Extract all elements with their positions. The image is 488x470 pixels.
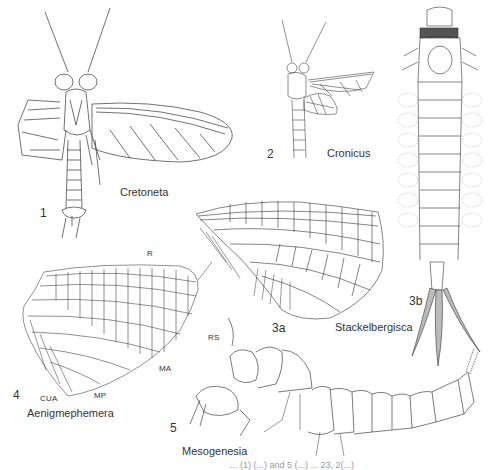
taxon-label-cretoneta: Cretoneta bbox=[120, 187, 168, 198]
mesogenesia-nymph-drawing bbox=[190, 318, 478, 456]
taxon-label-mesogenesia: Mesogenesia bbox=[182, 446, 247, 457]
panel-number-2: 2 bbox=[267, 148, 274, 160]
taxon-label-stackelbergisca: Stackelbergisca bbox=[335, 322, 413, 333]
panel-number-5: 5 bbox=[170, 422, 177, 434]
vein-label-rs: RS bbox=[208, 334, 220, 342]
panel-number-3a: 3a bbox=[272, 322, 285, 334]
taxon-label-aenigmephemera: Aenigmephemera bbox=[27, 408, 114, 419]
stackelbergisca-wing-drawing bbox=[196, 201, 383, 319]
cronicus-adult-drawing bbox=[282, 20, 374, 158]
panel-number-4: 4 bbox=[13, 389, 20, 401]
panel-number-1: 1 bbox=[40, 207, 47, 219]
vein-label-ma: MA bbox=[159, 365, 171, 373]
vein-label-cua: CUA bbox=[40, 395, 58, 403]
panel-number-3b: 3b bbox=[409, 295, 422, 307]
vein-label-r: R bbox=[147, 250, 153, 258]
taxon-label-cronicus: Cronicus bbox=[327, 148, 370, 159]
cretoneta-adult-drawing bbox=[18, 8, 232, 238]
aenigmephemera-wing-drawing bbox=[23, 262, 212, 396]
stackelbergisca-nymph-drawing bbox=[398, 7, 482, 366]
figure-caption-fragment: ... (1) (...) and 5 (...) ... 23, 2(...) bbox=[230, 460, 354, 470]
vein-label-mp: MP bbox=[94, 392, 106, 400]
